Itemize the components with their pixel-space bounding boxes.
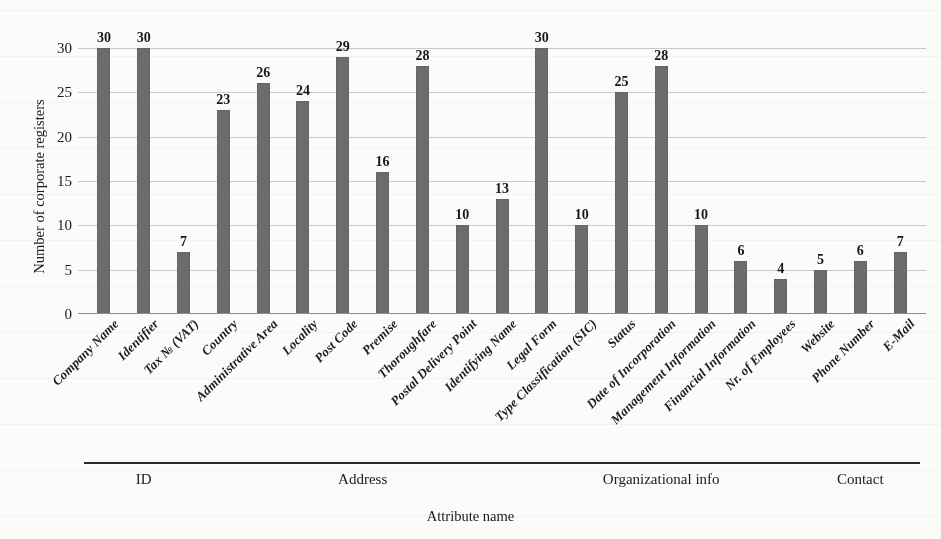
bar[interactable]	[496, 199, 509, 314]
bar-value-label: 24	[296, 84, 310, 98]
y-axis-tick-label: 15	[57, 173, 72, 190]
group-bracket-rule	[203, 462, 521, 464]
group-bracket-rule	[801, 462, 920, 464]
bar-value-label: 28	[415, 49, 429, 63]
bar[interactable]	[655, 66, 668, 314]
bar-slot[interactable]: 25	[602, 48, 642, 314]
bar-value-label: 28	[654, 49, 668, 63]
bar-slot[interactable]: 7	[164, 48, 204, 314]
bar[interactable]	[734, 261, 747, 314]
bar[interactable]	[894, 252, 907, 314]
x-axis-category-label: E-Mail	[880, 316, 919, 355]
bar-slot[interactable]: 4	[761, 48, 801, 314]
bar[interactable]	[575, 225, 588, 314]
bar-value-label: 10	[575, 208, 589, 222]
bar-value-label: 10	[694, 208, 708, 222]
bar[interactable]	[97, 48, 110, 314]
bar[interactable]	[695, 225, 708, 314]
bar-value-label: 7	[897, 235, 904, 249]
bar-slot[interactable]: 29	[323, 48, 363, 314]
y-axis-tick-label: 10	[57, 217, 72, 234]
bar[interactable]	[535, 48, 548, 314]
bar-value-label: 23	[216, 93, 230, 107]
bar[interactable]	[854, 261, 867, 314]
group-label: Organizational info	[522, 471, 801, 488]
bar-slot[interactable]: 28	[403, 48, 443, 314]
bar-series: 303072326242916281013301025281064567	[78, 48, 926, 314]
category-group-brackets: IDAddressOrganizational infoContact	[78, 462, 926, 508]
bar-value-label: 29	[336, 40, 350, 54]
bar-value-label: 7	[180, 235, 187, 249]
bar-slot[interactable]: 6	[721, 48, 761, 314]
bar-slot[interactable]: 23	[203, 48, 243, 314]
bar[interactable]	[177, 252, 190, 314]
bar-value-label: 30	[535, 31, 549, 45]
bar-value-label: 26	[256, 66, 270, 80]
x-axis-category-label: Status	[604, 316, 639, 351]
bar-slot[interactable]: 13	[482, 48, 522, 314]
bar-slot[interactable]: 26	[243, 48, 283, 314]
bar-slot[interactable]: 6	[840, 48, 880, 314]
y-axis-tick-label: 0	[65, 306, 73, 323]
bar[interactable]	[456, 225, 469, 314]
category-group: Address	[203, 462, 521, 488]
bar-chart: 051015202530 Number of corporate registe…	[0, 0, 941, 539]
bar[interactable]	[814, 270, 827, 314]
y-axis-tick-label: 25	[57, 84, 72, 101]
x-axis-title: Attribute name	[0, 508, 941, 525]
bar-value-label: 10	[455, 208, 469, 222]
x-axis-category-label: Post Code	[311, 316, 361, 366]
bar-slot[interactable]: 24	[283, 48, 323, 314]
x-axis-line	[78, 313, 926, 314]
category-group: ID	[84, 462, 203, 488]
y-axis-tick-label: 30	[57, 40, 72, 57]
group-label: Address	[203, 471, 521, 488]
bar-slot[interactable]: 30	[522, 48, 562, 314]
bar-slot[interactable]: 30	[84, 48, 124, 314]
y-axis-tick-label: 20	[57, 128, 72, 145]
bar-value-label: 25	[614, 75, 628, 89]
bar[interactable]	[416, 66, 429, 314]
x-axis-category-label: Company Name	[49, 316, 122, 389]
group-label: Contact	[801, 471, 920, 488]
bar[interactable]	[336, 57, 349, 314]
bar-value-label: 16	[376, 155, 390, 169]
plot-area: 303072326242916281013301025281064567	[78, 48, 926, 314]
group-bracket-rule	[522, 462, 801, 464]
bar-slot[interactable]: 10	[562, 48, 602, 314]
bar-slot[interactable]: 10	[681, 48, 721, 314]
bar-value-label: 6	[737, 244, 744, 258]
bar-slot[interactable]: 10	[442, 48, 482, 314]
category-group: Contact	[801, 462, 920, 488]
bar[interactable]	[615, 92, 628, 314]
bar-value-label: 30	[137, 31, 151, 45]
category-group: Organizational info	[522, 462, 801, 488]
bar[interactable]	[376, 172, 389, 314]
group-label: ID	[84, 471, 203, 488]
bar-slot[interactable]: 5	[801, 48, 841, 314]
bar-value-label: 30	[97, 31, 111, 45]
x-axis-category-label: Nr. of Employees	[721, 316, 799, 394]
bar-slot[interactable]: 7	[880, 48, 920, 314]
bar[interactable]	[137, 48, 150, 314]
bar-slot[interactable]: 28	[641, 48, 681, 314]
bar-slot[interactable]: 30	[124, 48, 164, 314]
bar[interactable]	[257, 83, 270, 314]
bar-slot[interactable]: 16	[363, 48, 403, 314]
bar[interactable]	[217, 110, 230, 314]
y-axis-tick-label: 5	[65, 261, 73, 278]
bar-value-label: 5	[817, 253, 824, 267]
bar[interactable]	[296, 101, 309, 314]
group-bracket-rule	[84, 462, 203, 464]
bar[interactable]	[774, 279, 787, 314]
bar-value-label: 13	[495, 182, 509, 196]
y-axis-title: Number of corporate registers	[31, 62, 48, 312]
bar-value-label: 4	[777, 262, 784, 276]
bar-value-label: 6	[857, 244, 864, 258]
